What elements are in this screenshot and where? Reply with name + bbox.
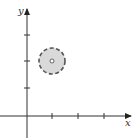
coordinate-plane: y x	[0, 0, 136, 138]
y-axis-label: y	[17, 5, 24, 16]
open-center-point	[50, 59, 54, 63]
x-axis-label: x	[125, 117, 131, 128]
